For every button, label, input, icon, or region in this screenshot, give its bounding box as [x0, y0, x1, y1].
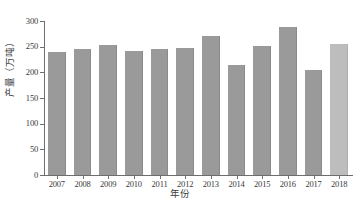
bar-2009[interactable]	[99, 45, 117, 175]
bar-2015[interactable]	[253, 46, 271, 175]
x-axis-title: 年份	[0, 189, 359, 199]
y-tick-label: 50	[8, 145, 38, 154]
x-axis-line	[44, 175, 353, 176]
bar-2011[interactable]	[151, 49, 169, 175]
bar-2018[interactable]	[330, 44, 348, 175]
plot-area	[44, 21, 352, 175]
bar-chart-figure: 050100150200250300 200720082009201020112…	[0, 0, 359, 205]
bar-2014[interactable]	[228, 65, 246, 175]
y-axis-title: 产量（万吨）	[5, 17, 15, 117]
bar-2017[interactable]	[305, 70, 323, 175]
y-tick-label: 100	[8, 119, 38, 128]
bar-2016[interactable]	[279, 27, 297, 175]
y-tick-label: 0	[8, 171, 38, 180]
bar-2012[interactable]	[176, 48, 194, 175]
y-tick-mark	[40, 175, 44, 176]
bar-2008[interactable]	[74, 49, 92, 175]
bar-2007[interactable]	[48, 52, 66, 175]
bar-2013[interactable]	[202, 36, 220, 175]
x-tick-label: 2018	[322, 180, 356, 189]
bar-2010[interactable]	[125, 51, 143, 175]
